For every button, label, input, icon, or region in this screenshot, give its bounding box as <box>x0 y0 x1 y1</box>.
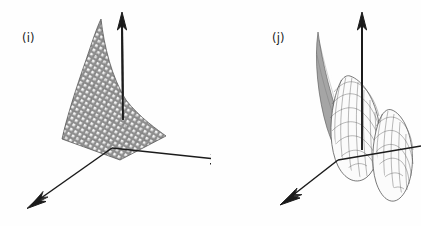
front-axis-shaft-i <box>34 148 112 203</box>
surface-body-i <box>62 19 166 160</box>
figure-canvas: (i) <box>0 0 421 226</box>
panel-j: (j) <box>210 0 421 226</box>
surface-mesh-i <box>62 19 166 160</box>
panel-label-j: (j) <box>272 31 285 45</box>
surface-wave-lobe-2-j <box>373 110 413 202</box>
surface-plot-j <box>210 0 421 226</box>
panel-i: (i) <box>0 0 211 226</box>
vertical-axis-shaft-i <box>122 18 123 120</box>
panel-label-i: (i) <box>22 31 35 45</box>
